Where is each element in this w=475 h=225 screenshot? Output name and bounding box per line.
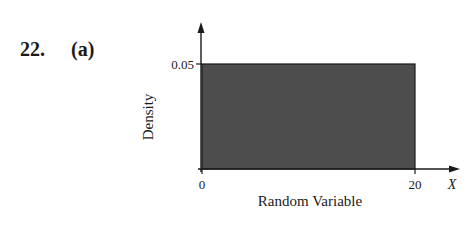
x-axis-symbol: X [447, 177, 457, 192]
x-tick-label: 20 [409, 177, 422, 192]
x-axis-title: Random Variable [258, 193, 363, 209]
x-axis-arrow-icon [449, 166, 460, 173]
y-axis-arrow-icon [198, 22, 205, 33]
uniform-density-chart: 0.05 0 20 X Random Variable Density [0, 0, 475, 225]
y-tick-label: 0.05 [171, 57, 194, 72]
x-tick-label: 0 [199, 177, 206, 192]
density-region [202, 64, 415, 169]
y-axis-title: Density [140, 93, 156, 140]
